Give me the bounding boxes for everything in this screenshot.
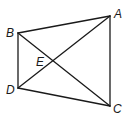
vertex-label-d: D [6, 83, 15, 97]
vertex-label-b: B [6, 26, 14, 40]
diagonal-bc [18, 33, 110, 106]
intersection-label-e: E [36, 55, 45, 69]
geometry-diagram: A B C D E [0, 0, 133, 122]
vertex-label-a: A [113, 7, 122, 21]
side-cd [18, 88, 110, 106]
side-ba [18, 16, 110, 33]
diagonal-da [18, 16, 110, 88]
vertex-label-c: C [113, 102, 122, 116]
